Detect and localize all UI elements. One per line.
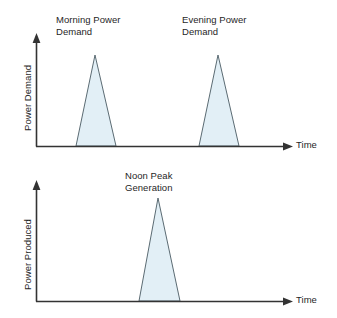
evening-power-demand-label: Evening Power Demand <box>182 14 247 37</box>
power-demand-chart: Morning Power Demand Evening Power Deman… <box>0 0 337 159</box>
produced-y-axis-title: Power Produced <box>22 219 33 290</box>
demand-x-axis-arrowhead <box>283 142 293 150</box>
produced-x-axis-title: Time <box>296 294 317 305</box>
diagram-canvas: Morning Power Demand Evening Power Deman… <box>0 0 337 318</box>
evening-demand-peak <box>199 55 239 146</box>
demand-y-axis-arrowhead <box>33 33 41 43</box>
demand-y-axis-title: Power Demand <box>22 65 33 131</box>
noon-peak-generation-label: Noon Peak Generation <box>125 170 173 193</box>
produced-x-axis-arrowhead <box>283 297 293 305</box>
demand-x-axis-title: Time <box>296 139 317 150</box>
morning-power-demand-label: Morning Power Demand <box>56 14 121 37</box>
power-demand-plot <box>0 0 337 159</box>
power-produced-chart: Noon Peak Generation Time Power Produced <box>0 159 337 318</box>
produced-y-axis-arrowhead <box>33 180 41 190</box>
morning-demand-peak <box>76 55 116 146</box>
noon-peak-generation-peak <box>139 198 180 301</box>
